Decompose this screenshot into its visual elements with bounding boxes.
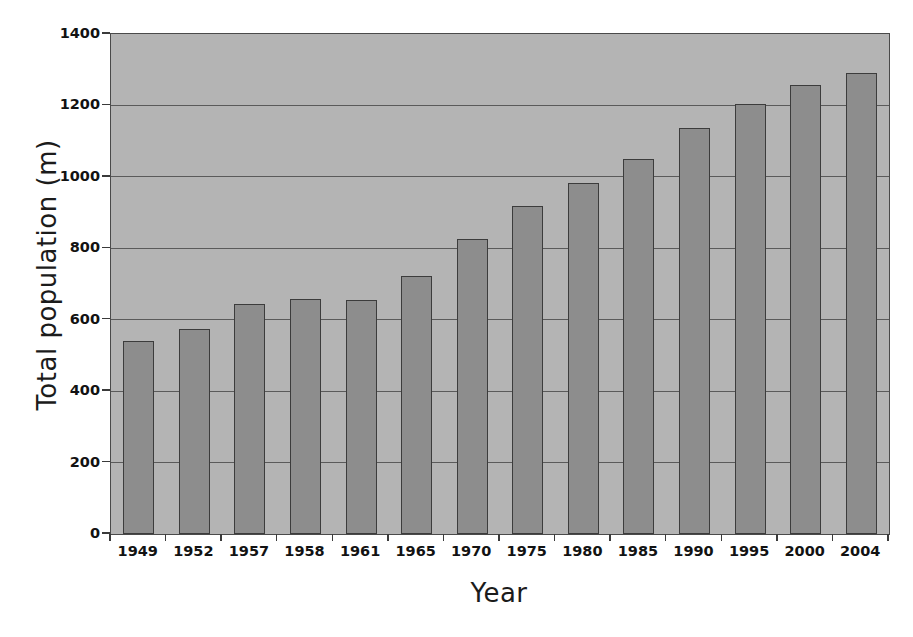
bar[interactable] xyxy=(623,159,654,534)
x-axis-tick-label: 1952 xyxy=(173,543,213,559)
x-axis-tick-label: 1985 xyxy=(618,543,658,559)
x-axis-tick-mark xyxy=(276,534,278,541)
bar[interactable] xyxy=(846,73,877,534)
bar[interactable] xyxy=(790,85,821,534)
gridline xyxy=(111,176,889,177)
bar[interactable] xyxy=(179,329,210,534)
x-axis-tick-label: 1965 xyxy=(395,543,435,559)
gridline xyxy=(111,319,889,320)
x-axis-tick-mark xyxy=(721,534,723,541)
x-axis-tick-mark xyxy=(554,534,556,541)
bar[interactable] xyxy=(735,104,766,534)
y-axis-tick-mark xyxy=(102,175,110,177)
x-axis-tick-label: 1958 xyxy=(284,543,324,559)
y-axis-tick-mark xyxy=(102,318,110,320)
gridline xyxy=(111,462,889,463)
x-axis-tick-label: 1949 xyxy=(118,543,158,559)
x-axis-tick-label: 1995 xyxy=(729,543,769,559)
x-axis-tick-label: 2000 xyxy=(784,543,824,559)
x-axis-tick-label: 1957 xyxy=(229,543,269,559)
bar[interactable] xyxy=(457,239,488,534)
x-axis-title: Year xyxy=(110,578,888,608)
bar[interactable] xyxy=(346,300,377,534)
bar[interactable] xyxy=(123,341,154,534)
y-axis-tick-label: 1000 xyxy=(40,168,100,184)
x-axis-tick-label: 1975 xyxy=(507,543,547,559)
y-axis-tick-mark xyxy=(102,247,110,249)
y-axis-tick-mark xyxy=(102,461,110,463)
y-axis-tick-label: 1200 xyxy=(40,96,100,112)
bar-chart-figure: Total population (m) Year 02004006008001… xyxy=(0,0,913,637)
y-axis-tick-label: 600 xyxy=(40,311,100,327)
gridline xyxy=(111,391,889,392)
plot-area xyxy=(110,33,890,535)
bar[interactable] xyxy=(512,206,543,534)
x-axis-tick-mark xyxy=(220,534,222,541)
x-axis-tick-mark xyxy=(443,534,445,541)
x-axis-tick-label: 2004 xyxy=(840,543,880,559)
bar[interactable] xyxy=(679,128,710,534)
x-axis-tick-label: 1970 xyxy=(451,543,491,559)
y-axis-tick-mark xyxy=(102,389,110,391)
x-axis-tick-label: 1961 xyxy=(340,543,380,559)
x-axis-tick-mark xyxy=(498,534,500,541)
y-axis-tick-mark xyxy=(102,32,110,34)
y-axis-tick-mark xyxy=(102,104,110,106)
x-axis-tick-mark xyxy=(109,534,111,541)
x-axis-tick-mark xyxy=(887,534,889,541)
bar[interactable] xyxy=(401,276,432,534)
y-axis-tick-label: 1400 xyxy=(40,25,100,41)
y-axis-tick-label: 800 xyxy=(40,239,100,255)
y-axis-tick-label: 0 xyxy=(40,525,100,541)
x-axis-tick-mark xyxy=(776,534,778,541)
gridline xyxy=(111,248,889,249)
bar[interactable] xyxy=(290,299,321,534)
x-axis-tick-mark xyxy=(332,534,334,541)
gridline xyxy=(111,105,889,106)
y-axis-tick-label: 200 xyxy=(40,454,100,470)
y-axis-tick-label: 400 xyxy=(40,382,100,398)
x-axis-tick-mark xyxy=(609,534,611,541)
x-axis-tick-label: 1990 xyxy=(673,543,713,559)
x-axis-tick-mark xyxy=(832,534,834,541)
x-axis-tick-mark xyxy=(165,534,167,541)
x-axis-tick-label: 1980 xyxy=(562,543,602,559)
bar[interactable] xyxy=(568,183,599,534)
x-axis-tick-mark xyxy=(665,534,667,541)
x-axis-tick-mark xyxy=(387,534,389,541)
bar[interactable] xyxy=(234,304,265,534)
